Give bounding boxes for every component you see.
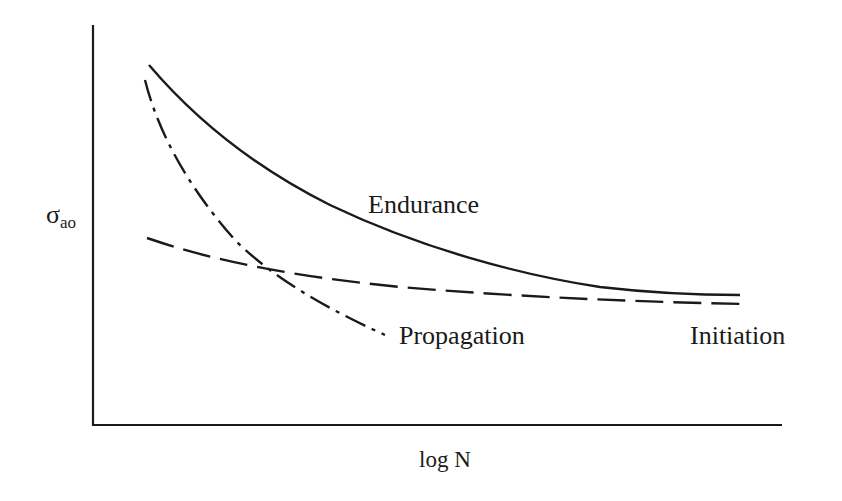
initiation-label: Initiation bbox=[690, 321, 785, 351]
x-axis-label: log N bbox=[419, 447, 471, 473]
endurance-label: Endurance bbox=[368, 190, 479, 220]
propagation-label: Propagation bbox=[399, 321, 525, 351]
y-axis-label: σao bbox=[46, 200, 76, 233]
y-axis-subscript: ao bbox=[60, 213, 76, 232]
sigma-symbol: σ bbox=[46, 200, 60, 229]
sn-curve-diagram bbox=[0, 0, 842, 501]
initiation-curve bbox=[147, 238, 745, 304]
propagation-curve bbox=[145, 80, 385, 335]
axes bbox=[92, 25, 782, 426]
endurance-curve bbox=[149, 65, 740, 295]
